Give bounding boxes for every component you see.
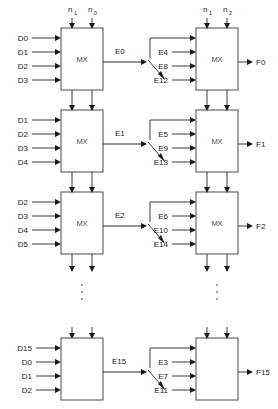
control-labels-left: n 1 n 0 — [68, 5, 97, 16]
row-last-right-input-arrow-2 — [190, 387, 196, 393]
left-bus-arrow-b — [89, 266, 95, 272]
row-0-feed-arrow — [190, 35, 196, 41]
row-last-right-input-label-1: E7 — [158, 372, 168, 381]
control-label-left-a: n — [68, 5, 72, 14]
ellipsis-dot — [216, 298, 218, 300]
row-last-right-input-label-2: E11 — [154, 386, 168, 395]
row-last-input-label-2: D1 — [22, 372, 33, 381]
row-0-output-label: F0 — [256, 58, 266, 67]
row-last-feed-path — [150, 348, 192, 368]
row-0-right-input-label-1: E8 — [158, 62, 168, 71]
row-2-input-label-1: D3 — [18, 212, 29, 221]
row-0-output-arrow — [247, 59, 253, 65]
row-1-input-label-2: D3 — [18, 144, 29, 153]
row-2-left-mux-label: MX — [76, 219, 87, 228]
row-1-input-label-1: D2 — [18, 130, 29, 139]
row-2-right-input-label-2: E14 — [154, 240, 169, 249]
row-2-intermediate-label: E2 — [115, 211, 125, 220]
row-1-input-label-3: D4 — [18, 158, 29, 167]
mux-network-diagram: MX D0 D1 D2 D3 E0 — [0, 0, 278, 409]
control-label-right-b: n — [223, 5, 227, 14]
row-1-feed-path — [150, 120, 192, 140]
row-0-intermediate-arrow — [141, 59, 147, 65]
row-1-input-arrow-3 — [55, 159, 61, 165]
row-1-right-mux-label: MX — [211, 137, 222, 146]
row-1-input-arrow-1 — [55, 131, 61, 137]
row-2-right-input-label-1: E10 — [154, 226, 169, 235]
row-2-output-arrow — [247, 223, 253, 229]
row-last-input-label-1: D0 — [22, 358, 33, 367]
row-1-intermediate-label: E1 — [115, 129, 125, 138]
ellipsis-dot — [81, 291, 83, 293]
control-labels-right: n 1 n 2 — [203, 5, 232, 16]
row-0-input-label-0: D0 — [18, 34, 29, 43]
row-2-right-input-arrow-0 — [190, 213, 196, 219]
row-last-output-arrow — [247, 369, 253, 375]
row-1-input-arrow-2 — [55, 145, 61, 151]
row-1-intermediate-arrow — [141, 141, 147, 147]
row-2-input-arrow-0 — [55, 199, 61, 205]
row-1-right-input-label-0: E5 — [158, 130, 168, 139]
row-0-input-label-3: D3 — [18, 76, 29, 85]
row-1-feed-arrow — [190, 117, 196, 123]
row-last-intermediate-label: E15 — [112, 357, 127, 366]
row-0-input-arrow-2 — [55, 63, 61, 69]
control-label-right-b-subscript: 2 — [229, 10, 232, 16]
row-2-right-input-arrow-2 — [190, 241, 196, 247]
row-2-input-arrow-2 — [55, 227, 61, 233]
row-0-intermediate-label: E0 — [115, 47, 125, 56]
row-0-right-input-label-0: E4 — [158, 48, 168, 57]
row-1-input-arrow-0 — [55, 117, 61, 123]
row-0-input-arrow-1 — [55, 49, 61, 55]
row-2-right-mux-label: MX — [211, 219, 222, 228]
row-0-feed-path — [150, 38, 192, 58]
row-2-input-arrow-3 — [55, 241, 61, 247]
row-2-input-label-2: D4 — [18, 226, 29, 235]
row-0-input-label-2: D2 — [18, 62, 29, 71]
continuation-wires — [69, 254, 230, 272]
row-0-right-mux-label: MX — [211, 55, 222, 64]
row-last-input-label-0: D15 — [17, 344, 32, 353]
right-bus-arrow-a — [204, 266, 210, 272]
row-1-output-label: F1 — [256, 140, 266, 149]
control-label-left-b: n — [88, 5, 92, 14]
row-last-feed-arrow — [190, 345, 196, 351]
row-2-right-input-label-0: E6 — [158, 212, 168, 221]
row-0-right-input-label-2: E12 — [154, 76, 169, 85]
control-label-left-a-subscript: 1 — [74, 10, 77, 16]
control-label-right-a: n — [203, 5, 207, 14]
row-last: D15 D0 D1 D2 E15 E3 — [17, 327, 270, 400]
row-last-input-arrow-1 — [55, 359, 61, 365]
row-last-right-input-arrow-1 — [190, 373, 196, 379]
right-bus-arrow-b — [224, 266, 230, 272]
row-1-right-input-arrow-0 — [190, 131, 196, 137]
row-last-right-input-label-0: E3 — [158, 358, 168, 367]
control-label-left-b-subscript: 0 — [94, 10, 97, 16]
row-last-input-label-3: D2 — [22, 386, 33, 395]
row-1-input-label-0: D1 — [18, 116, 29, 125]
row-0-right-input-arrow-2 — [190, 77, 196, 83]
row-0-right-input-arrow-0 — [190, 49, 196, 55]
row-0: MX D0 D1 D2 D3 E0 — [18, 18, 266, 90]
row-last-intermediate-arrow — [141, 369, 147, 375]
row-1-right-input-label-1: E9 — [158, 144, 168, 153]
ellipsis-dot — [81, 298, 83, 300]
row-2-intermediate-arrow — [141, 223, 147, 229]
row-1-left-mux-label: MX — [76, 137, 87, 146]
control-label-right-a-subscript: 1 — [209, 10, 212, 16]
row-last-left-mux-box — [61, 338, 103, 400]
row-0-right-input-arrow-1 — [190, 63, 196, 69]
row-1-right-input-arrow-1 — [190, 145, 196, 151]
left-bus-arrow-a — [69, 266, 75, 272]
row-0-input-label-1: D1 — [18, 48, 29, 57]
row-1-right-input-arrow-2 — [190, 159, 196, 165]
vertical-ellipsis-left — [81, 284, 83, 300]
row-last-right-input-arrow-0 — [190, 359, 196, 365]
row-0-input-arrow-3 — [55, 77, 61, 83]
diagram-canvas: MX D0 D1 D2 D3 E0 — [0, 0, 278, 409]
ellipsis-dot — [216, 284, 218, 286]
row-0-input-arrow-0 — [55, 35, 61, 41]
row-2-output-label: F2 — [256, 222, 266, 231]
row-0-left-mux-label: MX — [76, 55, 87, 64]
row-2-right-input-arrow-1 — [190, 227, 196, 233]
